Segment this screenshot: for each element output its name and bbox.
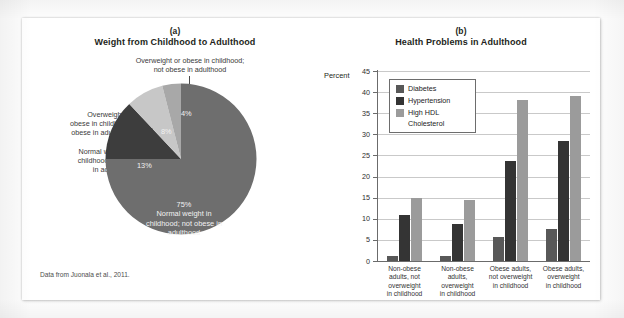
- bar: [399, 215, 410, 261]
- y-axis-label: Percent: [324, 71, 349, 80]
- legend-label: High HDL: [408, 108, 439, 117]
- panel-a-letter: (a): [30, 26, 320, 36]
- y-axis-tick-label: 35: [350, 109, 370, 118]
- bar: [493, 237, 504, 261]
- bar: [452, 224, 463, 261]
- pie-callout-overweight-not-obese: Overweight or obese in childhood; not ob…: [106, 56, 274, 74]
- bar-group: [537, 71, 590, 261]
- x-axis-category-line: in childhood: [532, 282, 596, 290]
- y-axis-tick-label: 20: [350, 172, 370, 181]
- y-axis-tick-label: 5: [350, 235, 370, 244]
- bar: [570, 96, 581, 262]
- bar: [517, 100, 528, 261]
- y-axis-tick-label: 0: [350, 257, 370, 266]
- x-axis-category-line: in childhood: [426, 290, 490, 298]
- legend-label: Hypertension: [408, 96, 450, 105]
- y-axis-tick-label: 10: [350, 214, 370, 223]
- x-axis-line: [377, 261, 590, 262]
- pie-value-8: 8%: [161, 127, 172, 136]
- bar-group: [484, 71, 537, 261]
- legend-swatch: [396, 85, 404, 93]
- pie-value-4: 4%: [181, 109, 192, 118]
- bar: [546, 229, 557, 261]
- figure-panel: (a) Weight from Childhood to Adulthood O…: [22, 18, 600, 300]
- legend-swatch: [396, 97, 404, 105]
- legend-label: Diabetes: [408, 84, 436, 93]
- panel-b-title: Health Problems in Adulthood: [322, 37, 600, 47]
- chart-a-pie: (a) Weight from Childhood to Adulthood O…: [30, 24, 320, 294]
- pie-callout-line: Overweight or obese in childhood;: [106, 56, 274, 65]
- data-source-credit: Data from Juonala et al., 2011.: [40, 271, 130, 278]
- bar: [505, 161, 516, 261]
- x-axis-category-line: overweight: [532, 273, 596, 281]
- y-axis-tick-label: 40: [350, 88, 370, 97]
- y-axis-tick-label: 25: [350, 151, 370, 160]
- bar: [558, 141, 569, 261]
- figure-container: (a) Weight from Childhood to Adulthood O…: [0, 0, 624, 318]
- bar: [387, 256, 398, 261]
- legend-label: Cholesterol: [408, 119, 444, 128]
- panel-a-title: Weight from Childhood to Adulthood: [30, 37, 320, 47]
- bar: [411, 198, 422, 261]
- pie-callout-line: not obese in adulthood: [106, 65, 274, 74]
- legend-swatch: [396, 109, 404, 117]
- bar: [464, 200, 475, 261]
- chart-legend: DiabetesHypertensionHigh HDLCholesterol: [389, 79, 476, 133]
- bar: [440, 256, 451, 261]
- pie-center-line: adulthood: [126, 228, 242, 237]
- y-axis-tick-label: 45: [350, 67, 370, 76]
- y-axis-tick-label: 15: [350, 193, 370, 202]
- panel-b-letter: (b): [322, 26, 600, 36]
- x-axis-category-label: Obese adults,overweightin childhood: [532, 265, 596, 290]
- pie-center-line: childhood; not obese in: [126, 219, 242, 228]
- chart-b-bar: (b) Health Problems in Adulthood Percent…: [322, 24, 600, 294]
- pie-center-line: Normal weight in: [126, 209, 242, 218]
- pie-value-13: 13%: [137, 161, 152, 170]
- pie-value-75: 75%: [126, 200, 242, 209]
- pie-value-75-label: 75% Normal weight in childhood; not obes…: [126, 200, 242, 238]
- x-axis-category-line: Obese adults,: [532, 265, 596, 273]
- y-axis-tick-label: 30: [350, 130, 370, 139]
